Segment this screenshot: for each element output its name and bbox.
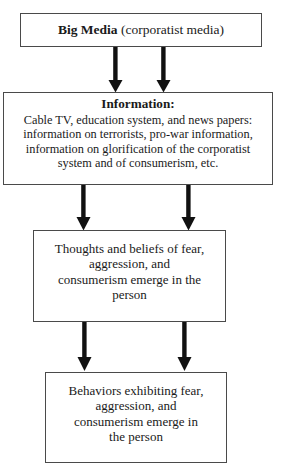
node-behaviors-line-2: aggression, and xyxy=(96,398,177,413)
node-behaviors-line-1: Behaviors exhibiting fear, xyxy=(69,383,204,398)
arrow-big-media-to-information-left xyxy=(108,47,124,93)
arrow-thoughts-to-behaviors-right xyxy=(177,322,193,372)
node-thoughts-line-1: Thoughts and beliefs of fear, xyxy=(55,241,204,256)
node-big-media-emphasis: Big Media xyxy=(58,22,118,37)
arrow-thoughts-to-behaviors-left xyxy=(77,322,93,372)
node-behaviors: Behaviors exhibiting fear, aggression, a… xyxy=(45,372,227,463)
flowchart-diagram: Big Media (corporatist media) Informatio… xyxy=(0,0,282,471)
node-information-line-3: information on glorification of the corp… xyxy=(26,142,250,157)
node-behaviors-line-4: the person xyxy=(109,429,163,444)
node-information-line-1: Cable TV, education system, and news pap… xyxy=(24,113,252,128)
node-thoughts-line-3: consumerism emerge in the xyxy=(58,272,201,287)
node-thoughts-line-4: person xyxy=(112,287,147,302)
arrow-information-to-thoughts-right xyxy=(181,185,197,231)
node-information-heading: Information: xyxy=(101,96,174,112)
arrow-big-media-to-information-right xyxy=(156,47,172,93)
node-big-media-rest: (corporatist media) xyxy=(118,22,224,37)
node-big-media: Big Media (corporatist media) xyxy=(20,13,262,47)
node-thoughts-line-2: aggression, and xyxy=(89,256,170,271)
node-big-media-text: Big Media (corporatist media) xyxy=(58,22,224,38)
node-behaviors-line-3: consumerism emerge in xyxy=(74,414,198,429)
node-information-line-4: system and of consumerism, etc. xyxy=(58,156,219,171)
node-thoughts-and-beliefs: Thoughts and beliefs of fear, aggression… xyxy=(33,230,226,322)
node-information: Information: Cable TV, education system,… xyxy=(3,92,273,185)
node-information-line-2: information on terrorists, pro-war infor… xyxy=(23,127,253,142)
arrow-information-to-thoughts-left xyxy=(76,185,92,231)
